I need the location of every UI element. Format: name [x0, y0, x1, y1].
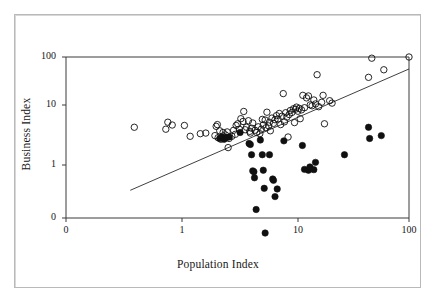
data-point-open-circles-57 — [280, 90, 286, 96]
data-point-open-circles-89 — [369, 55, 375, 61]
x-tick-label-100: 100 — [389, 224, 429, 235]
data-point-open-circles-81 — [314, 72, 320, 78]
data-point-filled-circles-17 — [262, 230, 268, 236]
data-point-filled-circles-30 — [341, 152, 347, 158]
data-point-open-circles-83 — [318, 99, 324, 105]
data-point-open-circles-79 — [311, 97, 317, 103]
data-point-open-circles-10 — [214, 121, 220, 127]
y-tick-label-1: 1 — [16, 158, 56, 169]
data-point-filled-circles-33 — [378, 132, 384, 138]
plot-axes — [62, 57, 409, 222]
data-point-filled-circles-21 — [272, 193, 278, 199]
data-point-open-circles-1 — [163, 126, 169, 132]
data-point-open-circles-5 — [187, 133, 193, 139]
data-point-filled-circles-8 — [248, 152, 254, 158]
x-tick-label-1: 1 — [162, 224, 202, 235]
data-point-filled-circles-24 — [299, 142, 305, 148]
data-point-filled-circles-23 — [281, 138, 287, 144]
x-tick-label-10: 10 — [278, 224, 318, 235]
data-point-filled-circles-4 — [226, 134, 232, 140]
data-point-open-circles-45 — [264, 109, 270, 115]
data-point-filled-circles-10 — [251, 169, 257, 175]
data-point-open-circles-66 — [291, 119, 297, 125]
data-point-filled-circles-32 — [366, 135, 372, 141]
data-point-filled-circles-11 — [251, 175, 257, 181]
data-point-open-circles-28 — [241, 108, 247, 114]
data-point-filled-circles-28 — [311, 166, 317, 172]
data-point-filled-circles-13 — [257, 137, 263, 143]
data-point-filled-circles-12 — [253, 206, 259, 212]
y-tick-label-100: 100 — [16, 50, 56, 61]
data-point-open-circles-90 — [381, 67, 387, 73]
scatter-plot-canvas — [0, 0, 436, 301]
x-tick-label-0: 0 — [46, 224, 86, 235]
series-filled-circles — [217, 124, 385, 236]
data-point-filled-circles-16 — [261, 185, 267, 191]
data-point-filled-circles-7 — [247, 141, 253, 147]
y-tick-label-10: 10 — [16, 98, 56, 109]
data-point-open-circles-0 — [131, 124, 137, 130]
figure-container: Population Index Business Index 0110100 … — [0, 0, 436, 301]
data-point-filled-circles-29 — [312, 159, 318, 165]
data-point-filled-circles-15 — [260, 167, 266, 173]
data-point-filled-circles-5 — [237, 129, 243, 135]
data-point-filled-circles-31 — [365, 124, 371, 130]
data-point-filled-circles-20 — [270, 177, 276, 183]
y-tick-label-0: 0 — [16, 211, 56, 222]
data-point-filled-circles-18 — [266, 152, 272, 158]
y-axis-title: Business Index — [20, 74, 32, 194]
x-axis-title: Population Index — [0, 258, 436, 270]
data-point-open-circles-85 — [321, 121, 327, 127]
data-point-filled-circles-14 — [259, 152, 265, 158]
data-point-open-circles-84 — [320, 92, 326, 98]
data-point-open-circles-88 — [365, 74, 371, 80]
data-point-open-circles-4 — [181, 122, 187, 128]
data-point-filled-circles-22 — [274, 186, 280, 192]
